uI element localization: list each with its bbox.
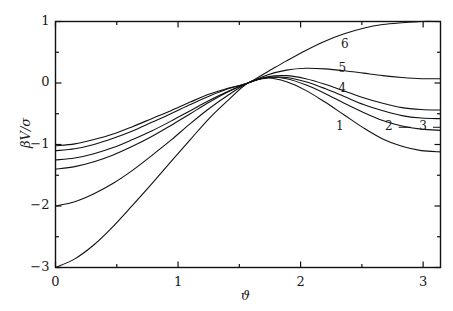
tick-marks [56,22,441,268]
curve-1 [56,78,441,267]
y-tick-label-1: 0 [22,74,50,89]
y-tick-label-3: −2 [22,197,50,212]
x-tick-label-0: 0 [44,274,68,289]
curve-label-2: 2 [381,119,397,133]
x-tick-label-3: 3 [411,274,435,289]
chart-figure: 012310−1−2−3 βV/σ ϑ 654123 [0,0,453,311]
data-curves [56,21,441,267]
axis-frame [56,22,441,268]
x-tick-label-1: 1 [166,274,190,289]
curve-label-3: 3 [415,119,431,133]
curve-label-4: 4 [334,81,350,95]
curve-label-1: 1 [332,119,348,133]
y-tick-label-4: −3 [22,259,50,274]
plot-canvas [0,0,453,311]
x-tick-label-2: 2 [289,274,313,289]
x-axis-title: ϑ [215,288,275,303]
curve-5 [56,68,441,150]
curve-4 [56,76,441,160]
curve-label-5: 5 [334,61,350,75]
curve-2 [56,77,441,206]
y-tick-label-0: 1 [22,13,50,28]
curve-label-6: 6 [337,37,353,51]
y-axis-title: βV/σ [18,117,33,147]
